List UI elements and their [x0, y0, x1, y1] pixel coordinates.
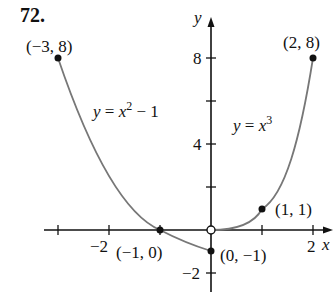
problem-number: 72.	[20, 4, 45, 26]
curve-parabola	[58, 58, 211, 251]
point-1-1	[259, 206, 266, 213]
y-axis-arrow-icon	[208, 17, 215, 27]
point-2-8	[310, 55, 317, 62]
graph: 72. (−3, 8) (2, 8) (−1, 0) (1, 1) (0, −1…	[0, 0, 335, 292]
tick-label-x-2: 2	[307, 237, 316, 256]
tick-label-x-m2: −2	[90, 237, 108, 256]
y-axis-label: y	[192, 8, 202, 27]
open-point-origin	[207, 226, 215, 234]
label-point-2-8: (2, 8)	[283, 33, 320, 52]
x-axis-label: x	[321, 235, 330, 254]
tick-label-y-4: 4	[193, 135, 202, 154]
tick-label-y-m2: −2	[182, 264, 200, 283]
x-axis	[44, 225, 333, 235]
label-point-m1-0: (−1, 0)	[116, 243, 162, 262]
label-point-1-1: (1, 1)	[275, 200, 312, 219]
point-m1-0	[157, 227, 164, 234]
x-axis-arrow-icon	[323, 227, 333, 234]
label-equation-cubic: y = x3	[231, 113, 272, 135]
point-0-m1	[208, 248, 215, 255]
label-equation-parabola: y = x2 − 1	[91, 99, 159, 121]
label-point-m3-8: (−3, 8)	[26, 37, 72, 56]
tick-label-y-8: 8	[193, 49, 202, 68]
label-point-0-m1: (0, −1)	[220, 246, 266, 265]
